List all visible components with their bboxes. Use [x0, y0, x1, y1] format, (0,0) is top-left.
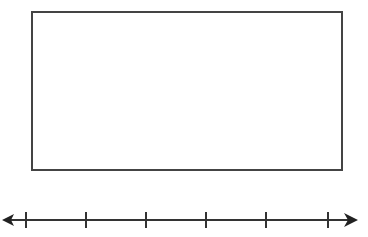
number-line: [0, 200, 368, 237]
blank-rectangle: [31, 11, 343, 171]
